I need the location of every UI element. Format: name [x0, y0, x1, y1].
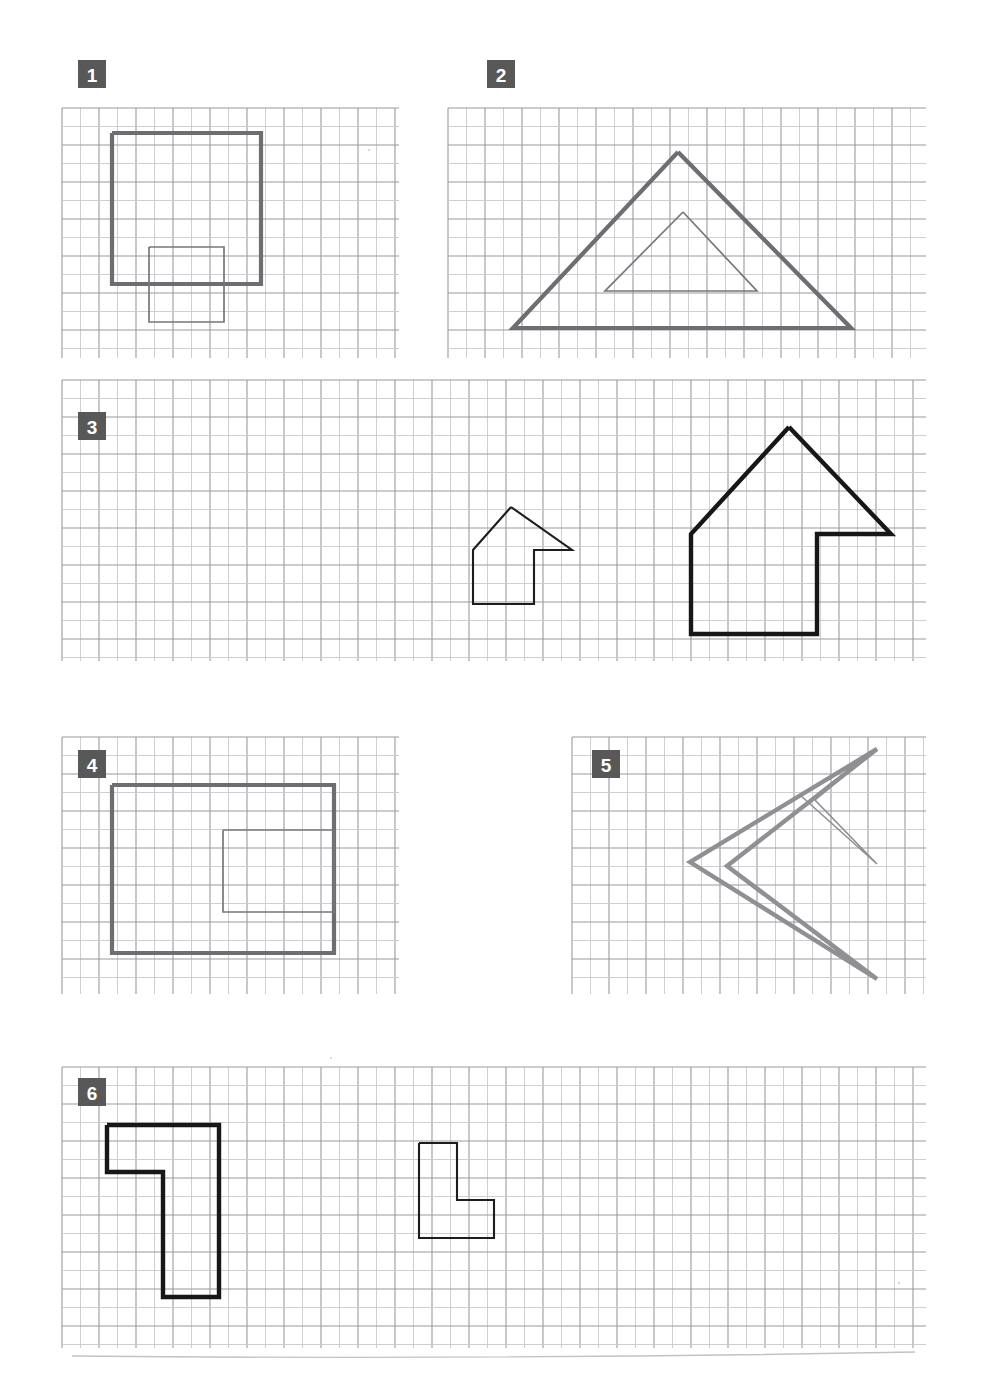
badge-number: 3: [87, 417, 98, 438]
paper-speck: [898, 1282, 900, 1284]
badge-number: 2: [496, 65, 507, 86]
badge-number: 4: [87, 755, 98, 776]
page-background: [0, 0, 983, 1388]
worksheet-canvas: 123456: [0, 0, 983, 1388]
exercise-badge-5: 5: [592, 750, 620, 778]
badge-number: 6: [87, 1083, 98, 1104]
paper-speck: [368, 149, 370, 151]
badge-number: 5: [601, 755, 612, 776]
badge-number: 1: [87, 65, 98, 86]
exercise-badge-3: 3: [78, 412, 106, 440]
exercise-badge-2: 2: [487, 60, 515, 88]
paper-speck: [330, 1057, 332, 1059]
exercise-badge-4: 4: [78, 750, 106, 778]
exercise-badge-6: 6: [78, 1078, 106, 1106]
worksheet-page: 123456: [0, 0, 983, 1388]
exercise-badge-1: 1: [78, 60, 106, 88]
